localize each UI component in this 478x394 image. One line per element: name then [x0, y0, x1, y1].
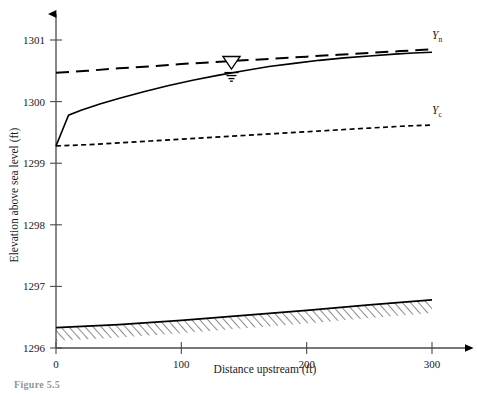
y-tick-label-1298: 1298 — [23, 219, 46, 231]
normal-depth-line — [56, 49, 432, 72]
curve-label-Yn: Yn — [432, 29, 442, 44]
curve-label-group: YnYc — [432, 29, 442, 119]
channel-bed-group — [56, 300, 432, 341]
y-tick-label-1296: 1296 — [23, 342, 46, 354]
critical-depth-line — [56, 125, 432, 146]
y-tick-label-1300: 1300 — [23, 96, 46, 108]
y-tick-label-1297: 1297 — [23, 280, 46, 292]
y-tick-label-1301: 1301 — [23, 34, 45, 46]
figure-caption: Figure 5.5 — [14, 379, 134, 393]
x-axis-title: Distance upstream (ft) — [214, 363, 317, 376]
water-level-triangle-icon — [223, 57, 240, 70]
channel-bed-hatching — [56, 300, 432, 341]
x-tick-label-0: 0 — [53, 358, 59, 370]
water-surface-symbol — [223, 57, 240, 82]
curve-label-Yc: Yc — [432, 104, 442, 119]
x-tick-label-100: 100 — [173, 358, 190, 370]
x-tick-label-300: 300 — [424, 358, 441, 370]
water-surface-profile-line — [56, 52, 432, 146]
y-tick-label-1299: 1299 — [23, 157, 46, 169]
y-axis-title: Elevation above sea level (ft) — [8, 127, 21, 262]
figure-container: 129612971298129913001301 0100200300 YnYc… — [0, 0, 478, 394]
axes-group — [56, 14, 466, 348]
chart-canvas: 129612971298129913001301 0100200300 YnYc… — [0, 0, 478, 394]
